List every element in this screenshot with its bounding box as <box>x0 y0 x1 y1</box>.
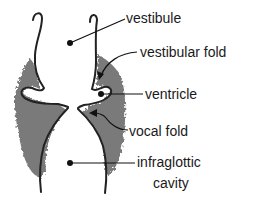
larynx-illustration <box>0 0 253 210</box>
label-infraglottic: infraglottic <box>137 155 201 170</box>
label-cavity: cavity <box>153 176 189 191</box>
label-vestibular-fold: vestibular fold <box>140 45 226 60</box>
label-ventricle: ventricle <box>145 87 197 102</box>
label-vocal-fold: vocal fold <box>129 124 188 139</box>
larynx-diagram: vestibule vestibular fold ventricle voca… <box>0 0 253 210</box>
label-vestibule: vestibule <box>126 11 181 26</box>
left-wall-upper-outline <box>22 13 68 107</box>
